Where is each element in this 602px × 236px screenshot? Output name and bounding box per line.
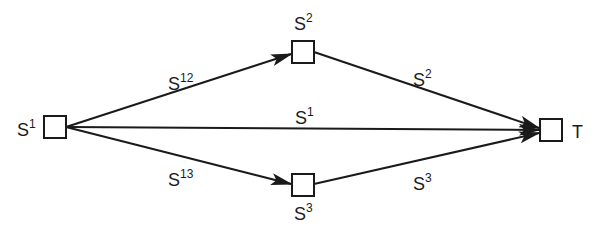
node-s3-label: S3	[294, 201, 313, 224]
node-s2-box	[292, 41, 314, 63]
edge-s3-t-label: S3	[413, 171, 432, 194]
node-s2-label: S2	[294, 11, 313, 34]
node-t-box	[540, 119, 562, 141]
node-s1-box	[44, 116, 66, 138]
edge-s1-t-label: S1	[295, 105, 314, 128]
edge-s2-to-t	[314, 52, 539, 128]
node-s1-label: S1	[17, 117, 36, 140]
edge-s1-s3-label: S13	[168, 167, 194, 190]
network-diagram: S1 S2 S3 T S12 S2 S1 S13 S3	[0, 0, 602, 236]
node-t-label: T	[572, 122, 583, 142]
edge-s2-t-label: S2	[413, 67, 432, 90]
node-s3-box	[292, 174, 314, 196]
